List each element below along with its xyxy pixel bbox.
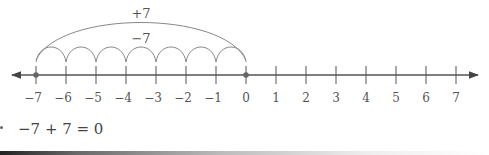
tick-label: 5	[392, 91, 400, 105]
equation: −7 + 7 = 0	[18, 120, 103, 138]
tick-label: −1	[204, 91, 222, 105]
small-arcs	[36, 47, 246, 62]
small-arc	[186, 47, 216, 62]
bottom-divider	[0, 151, 489, 155]
marked-point	[33, 72, 39, 78]
tick-label: 0	[242, 91, 250, 105]
tick-label: 4	[362, 91, 370, 105]
small-arc	[126, 47, 156, 62]
number-line-diagram: −7−6−5−4−3−2−101234567 +7 −7	[0, 0, 489, 120]
small-arc	[66, 47, 96, 62]
tick-labels: −7−6−5−4−3−2−101234567	[24, 91, 460, 105]
tick-label: −4	[114, 91, 132, 105]
tick-label: 1	[272, 91, 280, 105]
small-arc	[216, 47, 246, 62]
tick-label: 7	[452, 91, 460, 105]
tick-label: 3	[332, 91, 340, 105]
bullet-icon	[0, 126, 3, 129]
tick-label: 2	[302, 91, 310, 105]
tick-label: 6	[422, 91, 430, 105]
small-arc	[36, 47, 66, 62]
tick-label: −6	[54, 91, 72, 105]
tick-label: −2	[174, 91, 192, 105]
marked-point	[243, 72, 249, 78]
small-arc	[156, 47, 186, 62]
tick-label: −5	[84, 91, 102, 105]
small-arc-label: −7	[131, 31, 150, 46]
big-arc-label: +7	[131, 6, 150, 21]
tick-label: −3	[144, 91, 162, 105]
tick-label: −7	[24, 91, 42, 105]
small-arc	[96, 47, 126, 62]
